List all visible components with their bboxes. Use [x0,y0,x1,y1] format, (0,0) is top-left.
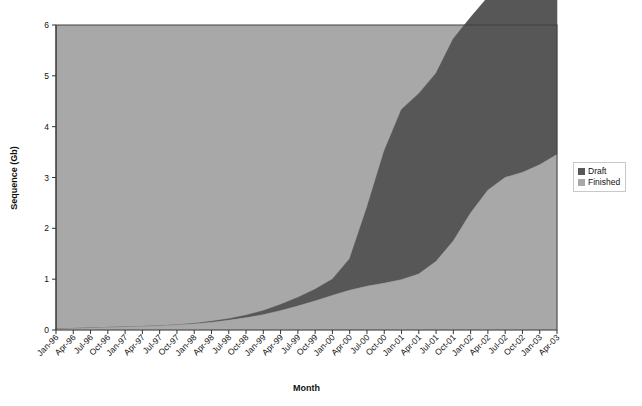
chart-legend: Draft Finished [573,162,626,192]
legend-swatch-draft [578,168,585,175]
legend-swatch-finished [578,179,585,186]
legend-label-draft: Draft [588,166,606,177]
y-axis-tick-label: 3 [44,173,49,183]
legend-item-draft[interactable]: Draft [578,166,620,177]
y-axis-tick-label: 6 [44,20,49,30]
area-chart: 0123456Jan-96Apr-96Jul-96Oct-96Jan-97Apr… [0,0,642,406]
legend-label-finished: Finished [588,177,620,188]
y-axis-tick-label: 0 [44,325,49,335]
y-axis-tick-label: 2 [44,223,49,233]
legend-item-finished[interactable]: Finished [578,177,620,188]
y-axis-tick-label: 1 [44,274,49,284]
y-axis-tick-label: 5 [44,71,49,81]
x-axis-title: Month [293,383,320,393]
y-axis-title: Sequence (Gb) [9,146,19,210]
y-axis-tick-label: 4 [44,122,49,132]
chart-container: 0123456Jan-96Apr-96Jul-96Oct-96Jan-97Apr… [0,0,642,406]
